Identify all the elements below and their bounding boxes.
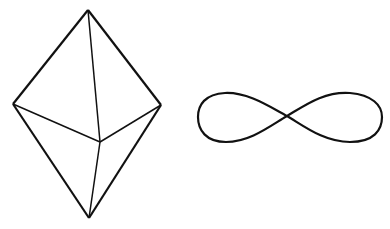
figure-eight-curve (198, 93, 382, 142)
edge-right-inner (100, 105, 161, 142)
edge-top-left (13, 10, 88, 104)
diagram-canvas (0, 0, 390, 229)
edge-inner-bottom (89, 142, 100, 218)
bipyramid-figure (13, 10, 161, 218)
edge-top-inner (88, 10, 100, 142)
edge-right-bottom (89, 105, 161, 218)
lemniscate-path (198, 93, 382, 142)
edge-top-right (88, 10, 161, 105)
